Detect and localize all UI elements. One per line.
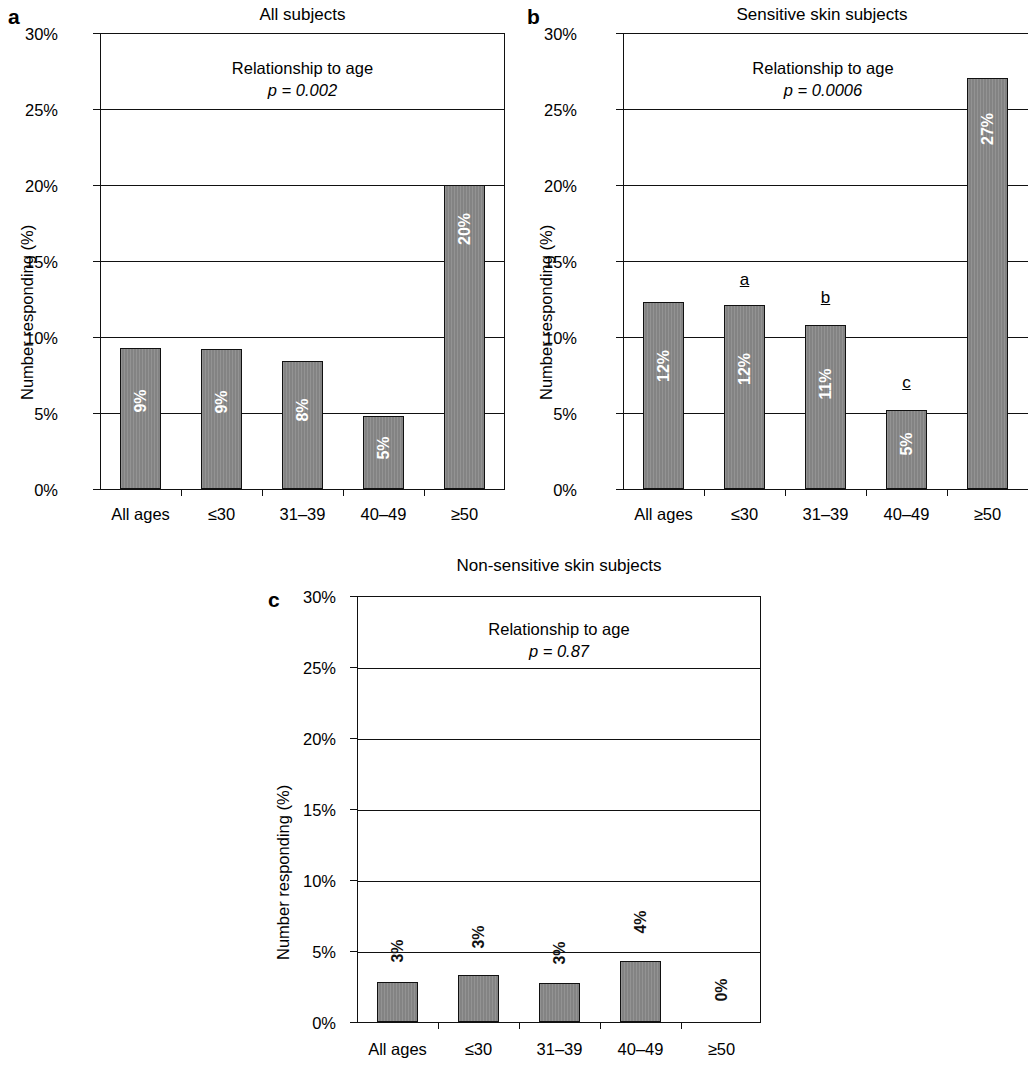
panel-b-note-31-39: b bbox=[805, 289, 846, 306]
panel-a-relationship-note: Relationship to age p = 0.002 bbox=[101, 57, 504, 102]
panel-a-xtickmark-1 bbox=[181, 490, 182, 496]
panel-a-gridline-25 bbox=[101, 109, 504, 110]
panel-b-xtick-le30: ≤30 bbox=[704, 506, 785, 523]
panel-a-xtick-40-49: 40–49 bbox=[343, 506, 424, 523]
panel-c-bar-value-31-39: 3% bbox=[552, 934, 568, 973]
panel-c-ytick-25: 25% bbox=[288, 660, 336, 677]
panel-b-xtickmark-4 bbox=[947, 490, 948, 496]
panel-b-p-value: p = 0.0006 bbox=[784, 81, 862, 99]
panel-a-ytick-0: 0% bbox=[10, 482, 58, 499]
panel-c-gridline-15 bbox=[358, 810, 760, 811]
panel-a-ytick-5: 5% bbox=[10, 406, 58, 423]
panel-c-bar-value-ge50: 0% bbox=[714, 970, 730, 1011]
panel-b-bar-value-all-ages: 12% bbox=[656, 347, 672, 386]
panel-b-bar-all-ages: 12% bbox=[643, 302, 684, 489]
panel-b-ytick-15: 15% bbox=[529, 254, 577, 271]
panel-a-ytick-25: 25% bbox=[10, 102, 58, 119]
panel-a-letter: a bbox=[8, 6, 20, 27]
panel-a-bar-value-le30: 9% bbox=[214, 383, 230, 422]
panel-b-xtickmark-1 bbox=[704, 490, 705, 496]
panel-b-plot-area: Relationship to age p = 0.0006 a b c 12%… bbox=[623, 33, 1028, 490]
panel-c-gridline-10 bbox=[358, 881, 760, 882]
panel-b-xtick-ge50: ≥50 bbox=[947, 506, 1028, 523]
panel-c-bar-all-ages: 3% bbox=[377, 982, 418, 1022]
panel-a-bar-ge50: 20% bbox=[444, 185, 485, 489]
panel-c-ytick-5: 5% bbox=[288, 944, 336, 961]
panel-a-xtick-31-39: 31–39 bbox=[262, 506, 343, 523]
panel-c-bar-31-39: 3% bbox=[539, 983, 580, 1022]
panel-b-bar-ge50: 27% bbox=[967, 78, 1008, 489]
panel-a-bar-all-ages: 9% bbox=[120, 348, 161, 489]
panel-a-bar-value-ge50: 20% bbox=[457, 210, 473, 249]
panel-b-bar-value-40-49: 5% bbox=[899, 425, 915, 464]
panel-c-ytick-10: 10% bbox=[288, 873, 336, 890]
panel-b-y-axis-title: Number responding (%) bbox=[537, 225, 556, 400]
panel-c-ytick-30: 30% bbox=[288, 589, 336, 606]
panel-a-bar-le30: 9% bbox=[201, 349, 242, 489]
panel-b-ytick-10: 10% bbox=[529, 330, 577, 347]
panel-c-bar-value-all-ages: 3% bbox=[390, 932, 406, 971]
panel-b-ytick-25: 25% bbox=[529, 102, 577, 119]
panel-a-xtick-ge50: ≥50 bbox=[424, 506, 505, 523]
panel-c-title: Non-sensitive skin subjects bbox=[357, 557, 761, 574]
panel-b-title: Sensitive skin subjects bbox=[623, 6, 1021, 23]
panel-a-xtick-le30: ≤30 bbox=[181, 506, 262, 523]
panel-a-bar-value-40-49: 5% bbox=[376, 429, 392, 468]
panel-c-ytick-15: 15% bbox=[288, 802, 336, 819]
panel-b-xtick-all-ages: All ages bbox=[623, 506, 704, 523]
panel-a-p-value: p = 0.002 bbox=[268, 81, 337, 99]
panel-c-gridline-25 bbox=[358, 668, 760, 669]
panel-c-gridline-20 bbox=[358, 739, 760, 740]
panel-b-bar-value-ge50: 27% bbox=[980, 110, 996, 149]
panel-c-bar-40-49: 4% bbox=[620, 961, 661, 1022]
panel-b-xtick-31-39: 31–39 bbox=[785, 506, 866, 523]
panel-b-ytick-0: 0% bbox=[529, 482, 577, 499]
panel-a-bar-31-39: 8% bbox=[282, 361, 323, 489]
panel-b-bar-le30: 12% bbox=[724, 305, 765, 489]
panel-b-ytick-30: 30% bbox=[529, 26, 577, 43]
panel-c-xtick-le30: ≤30 bbox=[438, 1041, 519, 1058]
panel-b-xtickmark-3 bbox=[866, 490, 867, 496]
panel-a-xtickmark-4 bbox=[424, 490, 425, 496]
panel-b-bar-40-49: 5% bbox=[886, 410, 927, 489]
panel-a-xtickmark-2 bbox=[262, 490, 263, 496]
panel-a-xtick-all-ages: All ages bbox=[100, 506, 181, 523]
panel-c-xtickmark-4 bbox=[681, 1023, 682, 1029]
panel-a-ytick-10: 10% bbox=[10, 330, 58, 347]
panel-c-ytick-0: 0% bbox=[288, 1015, 336, 1032]
panel-c-bar-value-le30: 3% bbox=[471, 918, 487, 957]
panel-a-bar-value-31-39: 8% bbox=[295, 391, 311, 430]
panel-c-p-value: p = 0.87 bbox=[529, 642, 589, 660]
panel-c-xtickmark-3 bbox=[600, 1023, 601, 1029]
panel-a-xtickmark-3 bbox=[343, 490, 344, 496]
panel-b-note-le30: a bbox=[724, 271, 765, 288]
panel-c-relationship-label: Relationship to age bbox=[358, 618, 760, 640]
panel-b-ytick-5: 5% bbox=[529, 406, 577, 423]
panel-b-xtick-40-49: 40–49 bbox=[866, 506, 947, 523]
panel-a-ytick-20: 20% bbox=[10, 178, 58, 195]
panel-b-relationship-label: Relationship to age bbox=[624, 57, 1022, 79]
panel-a-ytick-15: 15% bbox=[10, 254, 58, 271]
panel-a-relationship-label: Relationship to age bbox=[101, 57, 504, 79]
panel-c-relationship-note: Relationship to age p = 0.87 bbox=[358, 618, 760, 663]
panel-b-ytick-20: 20% bbox=[529, 178, 577, 195]
panel-b-note-40-49: c bbox=[886, 374, 927, 391]
panel-c-xtick-40-49: 40–49 bbox=[600, 1041, 681, 1058]
panel-c-letter: c bbox=[268, 589, 280, 610]
panel-b-xtickmark-2 bbox=[785, 490, 786, 496]
panel-a-ytick-30: 30% bbox=[10, 26, 58, 43]
panel-a-bar-value-all-ages: 9% bbox=[133, 382, 149, 421]
panel-a-bar-40-49: 5% bbox=[363, 416, 404, 489]
panel-c-xtick-ge50: ≥50 bbox=[681, 1041, 762, 1058]
panel-c-plot-area: Relationship to age p = 0.87 3% 3% 3% 4%… bbox=[357, 596, 761, 1023]
panel-b-bar-value-31-39: 11% bbox=[818, 365, 834, 404]
panel-b-bar-value-le30: 12% bbox=[737, 350, 753, 389]
panel-a-y-axis-title: Number responding (%) bbox=[18, 225, 37, 400]
panel-a-title: All subjects bbox=[100, 6, 505, 23]
panel-c-xtick-all-ages: All ages bbox=[357, 1041, 438, 1058]
panel-c-ytick-20: 20% bbox=[288, 731, 336, 748]
panel-b-bar-31-39: 11% bbox=[805, 325, 846, 489]
panel-a-plot-area: Relationship to age p = 0.002 9% 9% 8% 5… bbox=[100, 33, 505, 490]
panel-b-letter: b bbox=[527, 6, 540, 27]
panel-c-bar-value-40-49: 4% bbox=[633, 903, 649, 942]
